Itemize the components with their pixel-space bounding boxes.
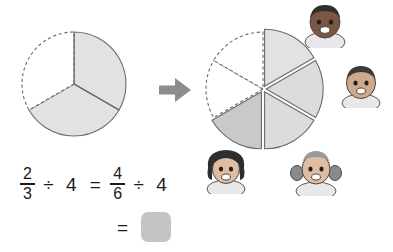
student-face-boy-dark-hair bbox=[299, 2, 351, 48]
student-face-girl-curly-hair bbox=[200, 146, 252, 194]
equation-line-1: 2 3 ÷ 4 = 4 6 ÷ 4 bbox=[18, 166, 173, 202]
fraction-four-sixths: 4 6 bbox=[110, 166, 125, 201]
arrow-shape bbox=[159, 78, 191, 102]
student-face-boy-short-hair bbox=[336, 62, 386, 108]
numerator: 4 bbox=[110, 166, 125, 183]
equals-sign-2: = bbox=[117, 218, 128, 237]
numerator: 2 bbox=[20, 166, 35, 183]
answer-input-box[interactable] bbox=[141, 212, 171, 242]
denominator: 6 bbox=[110, 185, 125, 202]
fraction-model-thirds bbox=[18, 28, 130, 140]
divisor-2: 4 bbox=[156, 175, 167, 194]
division-operator-1: ÷ bbox=[43, 175, 54, 194]
division-operator-2: ÷ bbox=[133, 175, 144, 194]
equation-line-2: = bbox=[110, 208, 171, 246]
right-arrow-icon bbox=[158, 76, 192, 104]
divisor-1: 4 bbox=[66, 175, 77, 194]
student-face-girl-pigtails bbox=[288, 146, 344, 196]
fraction-two-thirds: 2 3 bbox=[20, 166, 35, 201]
equals-sign-1: = bbox=[90, 175, 101, 194]
denominator: 3 bbox=[20, 185, 35, 202]
illustration-stage: 2 3 ÷ 4 = 4 6 ÷ 4 = bbox=[0, 0, 393, 252]
